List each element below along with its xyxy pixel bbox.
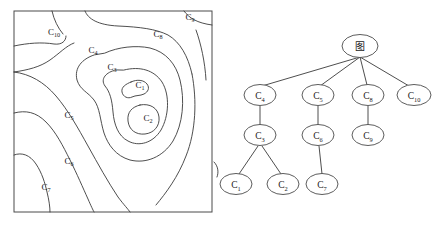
contour-label-c2: C2 [143,113,152,124]
contour-label-c4: C4 [88,45,97,56]
contour-label-c10: C10 [48,27,60,38]
tree-nodes-group: 图 C4 C5 C8 [220,35,431,195]
contour-line-c4 [76,47,182,161]
contour-label-c7: C7 [41,182,50,193]
tree-edge-c3-c2 [262,146,281,174]
tree-edge-root-c4 [262,57,360,86]
tree-edge-c6-c7 [319,146,322,174]
tree-node-c9[interactable]: C9 [352,125,384,146]
tree-node-c5[interactable]: C5 [302,85,334,106]
contour-line-c9b [196,30,206,80]
contour-label-c5: C5 [64,110,73,121]
contour-label-c1: C1 [135,80,144,91]
contour-label-group: C10 C9 C8 C4 C3 C1 C2 [41,12,194,193]
tree-edge-root-c5 [320,57,360,86]
contour-label-c3: C3 [107,62,116,73]
tree-node-c2[interactable]: C2 [267,174,299,195]
tree-node-c6[interactable]: C6 [302,125,334,146]
tree-svg: 图 C4 C5 C8 [215,0,445,226]
tree-panel: 图 C4 C5 C8 [215,0,445,226]
tree-node-c8[interactable]: C8 [352,85,384,106]
contour-map-svg: C10 C9 C8 C4 C3 C1 C2 [0,0,222,226]
contour-line-c6 [14,112,94,212]
tree-node-c7[interactable]: C7 [306,174,338,195]
contour-line-c5-top [14,43,74,72]
tree-node-c3[interactable]: C3 [244,125,276,146]
tree-node-c10[interactable]: C10 [397,85,431,106]
contour-label-c8: C8 [153,29,162,40]
contour-line-c5 [14,72,130,212]
tree-edge-root-c10 [360,57,409,86]
tree-node-root-label: 图 [355,41,365,52]
figure-root: C10 C9 C8 C4 C3 C1 C2 [0,0,445,226]
contour-label-c6: C6 [64,156,73,167]
contour-label-c9: C9 [185,12,194,23]
tree-node-root[interactable]: 图 [342,35,378,58]
tree-edge-root-c8 [360,57,367,85]
contour-line-c8 [85,11,192,74]
tree-node-c4[interactable]: C4 [244,85,276,106]
tree-node-c1[interactable]: C1 [220,174,252,195]
contour-line-c8-lower [156,74,195,205]
contour-map-panel: C10 C9 C8 C4 C3 C1 C2 [0,0,222,226]
tree-edges-group [239,57,409,174]
tree-edge-c3-c1 [239,146,258,174]
